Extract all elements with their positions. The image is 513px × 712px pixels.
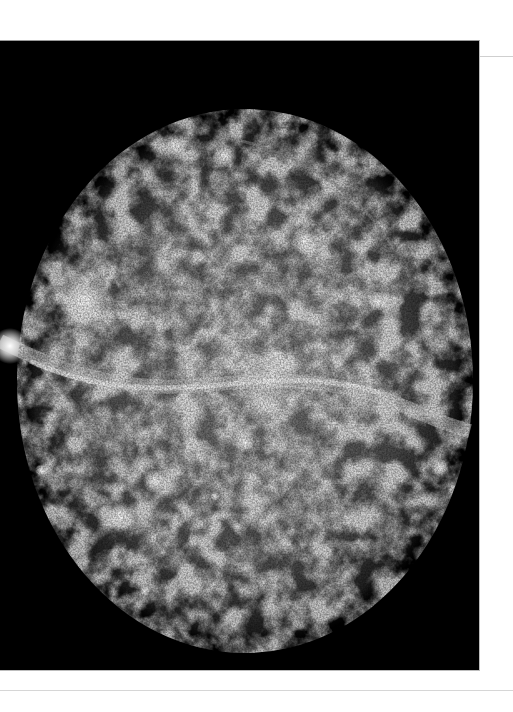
nebula-image [0, 40, 480, 671]
divider-top-right [480, 56, 513, 57]
divider-bottom [0, 690, 513, 691]
nebula-graphic [0, 41, 480, 671]
